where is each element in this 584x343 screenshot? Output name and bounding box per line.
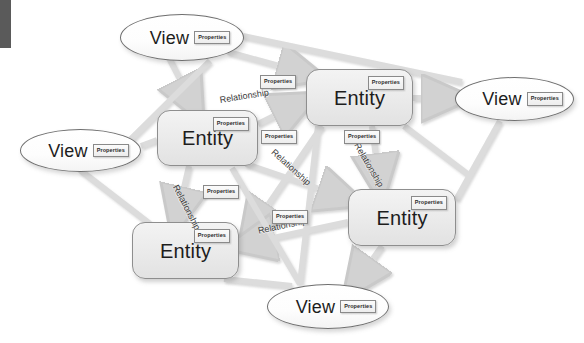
- node-entity-bottom[interactable]: EntityProperties: [132, 222, 239, 279]
- properties-chip[interactable]: Properties: [93, 144, 129, 158]
- node-label: View: [482, 90, 522, 108]
- properties-chip[interactable]: Properties: [213, 117, 249, 131]
- node-label: Entity: [334, 88, 385, 108]
- edge-viewleft-entitybottom: [80, 170, 150, 224]
- edge-viewtop-entitytop: [228, 52, 312, 75]
- node-content: ViewProperties: [150, 29, 231, 47]
- properties-chip[interactable]: Properties: [272, 210, 308, 224]
- node-label: Entity: [160, 241, 211, 261]
- properties-chip[interactable]: Properties: [527, 92, 563, 106]
- node-label: View: [296, 298, 336, 316]
- properties-chip[interactable]: Properties: [203, 185, 239, 199]
- node-content: ViewProperties: [48, 142, 129, 160]
- properties-chip[interactable]: Properties: [411, 196, 447, 210]
- node-view-bottom[interactable]: ViewProperties: [267, 284, 389, 329]
- node-view-top[interactable]: ViewProperties: [120, 14, 244, 61]
- node-view-right[interactable]: ViewProperties: [455, 77, 574, 121]
- edge-entityright-viewright: [456, 121, 500, 200]
- node-entity-top[interactable]: EntityProperties: [306, 69, 413, 126]
- node-entity-left[interactable]: EntityProperties: [157, 110, 258, 166]
- properties-chip[interactable]: Properties: [340, 300, 376, 314]
- edge-entitytop-right-branch: [404, 126, 470, 176]
- node-view-left[interactable]: ViewProperties: [20, 129, 141, 172]
- edge-entityright-viewbottom: [352, 246, 382, 288]
- window-corner-bar: [0, 0, 11, 48]
- node-label: Entity: [376, 208, 427, 228]
- node-entity-right[interactable]: EntityProperties: [348, 189, 456, 246]
- node-label: Entity: [182, 128, 233, 148]
- properties-chip[interactable]: Properties: [261, 130, 297, 144]
- edge-entityleft-viewleft: [141, 140, 157, 146]
- edge-entityleft-entitytop: [258, 100, 306, 124]
- edge-viewbottom-entitybottom: [224, 279, 292, 286]
- node-label: View: [150, 29, 190, 47]
- properties-chip[interactable]: Properties: [368, 76, 404, 90]
- properties-chip[interactable]: Properties: [194, 229, 230, 243]
- node-content: ViewProperties: [482, 90, 563, 108]
- node-label: View: [48, 142, 88, 160]
- properties-chip[interactable]: Properties: [344, 130, 380, 144]
- properties-chip[interactable]: Properties: [260, 75, 296, 89]
- node-content: ViewProperties: [296, 298, 377, 316]
- properties-chip[interactable]: Properties: [194, 31, 230, 45]
